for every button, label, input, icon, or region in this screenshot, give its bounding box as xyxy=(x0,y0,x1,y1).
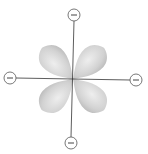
charge-right xyxy=(130,74,142,86)
orbital-svg xyxy=(0,0,148,154)
charge-top xyxy=(68,9,80,21)
axes xyxy=(16,21,130,137)
d-orbital-diagram xyxy=(0,0,148,154)
horizontal-axis xyxy=(16,78,130,80)
charge-left xyxy=(4,72,16,84)
charge-bottom xyxy=(65,137,77,149)
